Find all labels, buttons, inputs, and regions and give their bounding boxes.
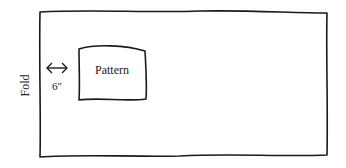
pattern-label: Pattern — [78, 63, 146, 78]
fabric-outline — [40, 11, 328, 157]
distance-label: 6″ — [46, 80, 68, 92]
double-arrow-icon — [47, 63, 67, 73]
fold-label: Fold — [18, 71, 33, 101]
